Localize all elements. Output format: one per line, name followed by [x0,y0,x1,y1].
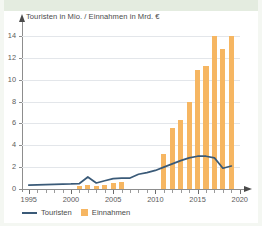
x-tick-mark-minor [147,190,148,193]
bar [195,70,200,189]
bar [85,185,90,189]
x-tick-label: 2020 [232,195,248,204]
x-tick-mark-minor [37,190,38,193]
decorative-top-band [0,0,262,11]
bar [178,120,183,189]
decorative-bottom-band [0,223,262,226]
x-tick-mark-minor [122,190,123,193]
x-tick-mark-major [155,190,156,194]
x-tick-mark-minor [46,190,47,193]
legend-label-einnahmen: Einnahmen [92,209,130,217]
x-tick-mark-minor [164,190,165,193]
chart-figure: Touristen in Mio. / Einnahmen in Mrd. € … [0,0,262,226]
bar [161,154,166,189]
x-tick-mark-minor [138,190,139,193]
y-tick-label: 12 [0,54,16,61]
y-tick-label: 2 [0,163,16,170]
x-tick-mark-minor [79,190,80,193]
x-tick-mark-major [71,190,72,194]
x-tick-mark-major [240,190,241,194]
x-tick-mark-major [198,190,199,194]
x-tick-mark-major [113,190,114,194]
x-tick-label: 2005 [105,195,121,204]
bar-series-einnahmen [22,36,244,189]
y-tick-label: 10 [0,76,16,83]
bar [212,36,217,189]
y-axis-arrow-icon [19,14,25,22]
x-tick-mark-minor [105,190,106,193]
legend-line-swatch-icon [22,212,37,214]
x-tick-mark-minor [130,190,131,193]
x-tick-mark-minor [181,190,182,193]
x-tick-mark-minor [88,190,89,193]
bar [119,182,124,189]
x-tick-mark-minor [54,190,55,193]
bar [220,49,225,189]
x-tick-label: 1995 [21,195,37,204]
x-tick-mark-major [29,190,30,194]
x-tick-mark-minor [231,190,232,193]
x-tick-label: 2010 [147,195,163,204]
y-tick-label: 14 [0,32,16,39]
y-tick-label: 4 [0,141,16,148]
bar [102,185,107,189]
x-tick-mark-minor [223,190,224,193]
x-tick-mark-minor [214,190,215,193]
y-tick-label: 8 [0,98,16,105]
bar [170,128,175,189]
bar [77,186,82,189]
legend-item-touristen[interactable]: Touristen [22,209,72,217]
bar [94,186,99,189]
legend-label-touristen: Touristen [41,209,72,217]
x-axis-line [22,189,244,190]
decorative-right-band [258,0,262,226]
y-tick-label: 6 [0,119,16,126]
x-tick-mark-minor [189,190,190,193]
chart-title: Touristen in Mio. / Einnahmen in Mrd. € [26,12,160,21]
x-axis-arrow-icon [244,186,252,192]
x-tick-mark-minor [172,190,173,193]
chart-legend: Touristen Einnahmen [22,209,130,217]
bar [203,66,208,189]
bar [111,183,116,189]
y-tick-label: 0 [0,185,16,192]
bar [229,36,234,189]
legend-bar-swatch-icon [81,209,88,216]
x-tick-mark-minor [206,190,207,193]
x-tick-label: 2015 [189,195,205,204]
x-tick-label: 2000 [63,195,79,204]
x-tick-mark-minor [63,190,64,193]
x-tick-mark-minor [96,190,97,193]
y-tick-mark [19,189,22,190]
bar [187,102,192,189]
legend-item-einnahmen[interactable]: Einnahmen [81,209,130,217]
